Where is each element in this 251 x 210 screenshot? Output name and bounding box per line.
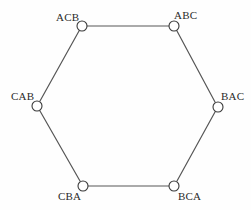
graph-edge [177, 31, 215, 102]
graph-node[interactable] [169, 21, 179, 31]
graph-node[interactable] [213, 102, 223, 112]
graph-node[interactable] [32, 101, 42, 111]
graph-edge [177, 112, 215, 181]
graph-canvas [0, 0, 251, 210]
nodes-layer [32, 21, 223, 191]
node-label-cab: CAB [11, 90, 34, 102]
node-label-bca: BCA [178, 190, 201, 202]
node-label-acb: ACB [56, 11, 79, 23]
node-label-abc: ABC [174, 9, 197, 21]
graph-edge [40, 31, 79, 101]
hexagon-graph-diagram: ACBABCBACBCACBACAB [0, 0, 251, 210]
edges-layer [40, 26, 215, 186]
graph-edge [40, 111, 80, 181]
node-label-cba: CBA [58, 190, 81, 202]
node-label-bac: BAC [221, 90, 244, 102]
